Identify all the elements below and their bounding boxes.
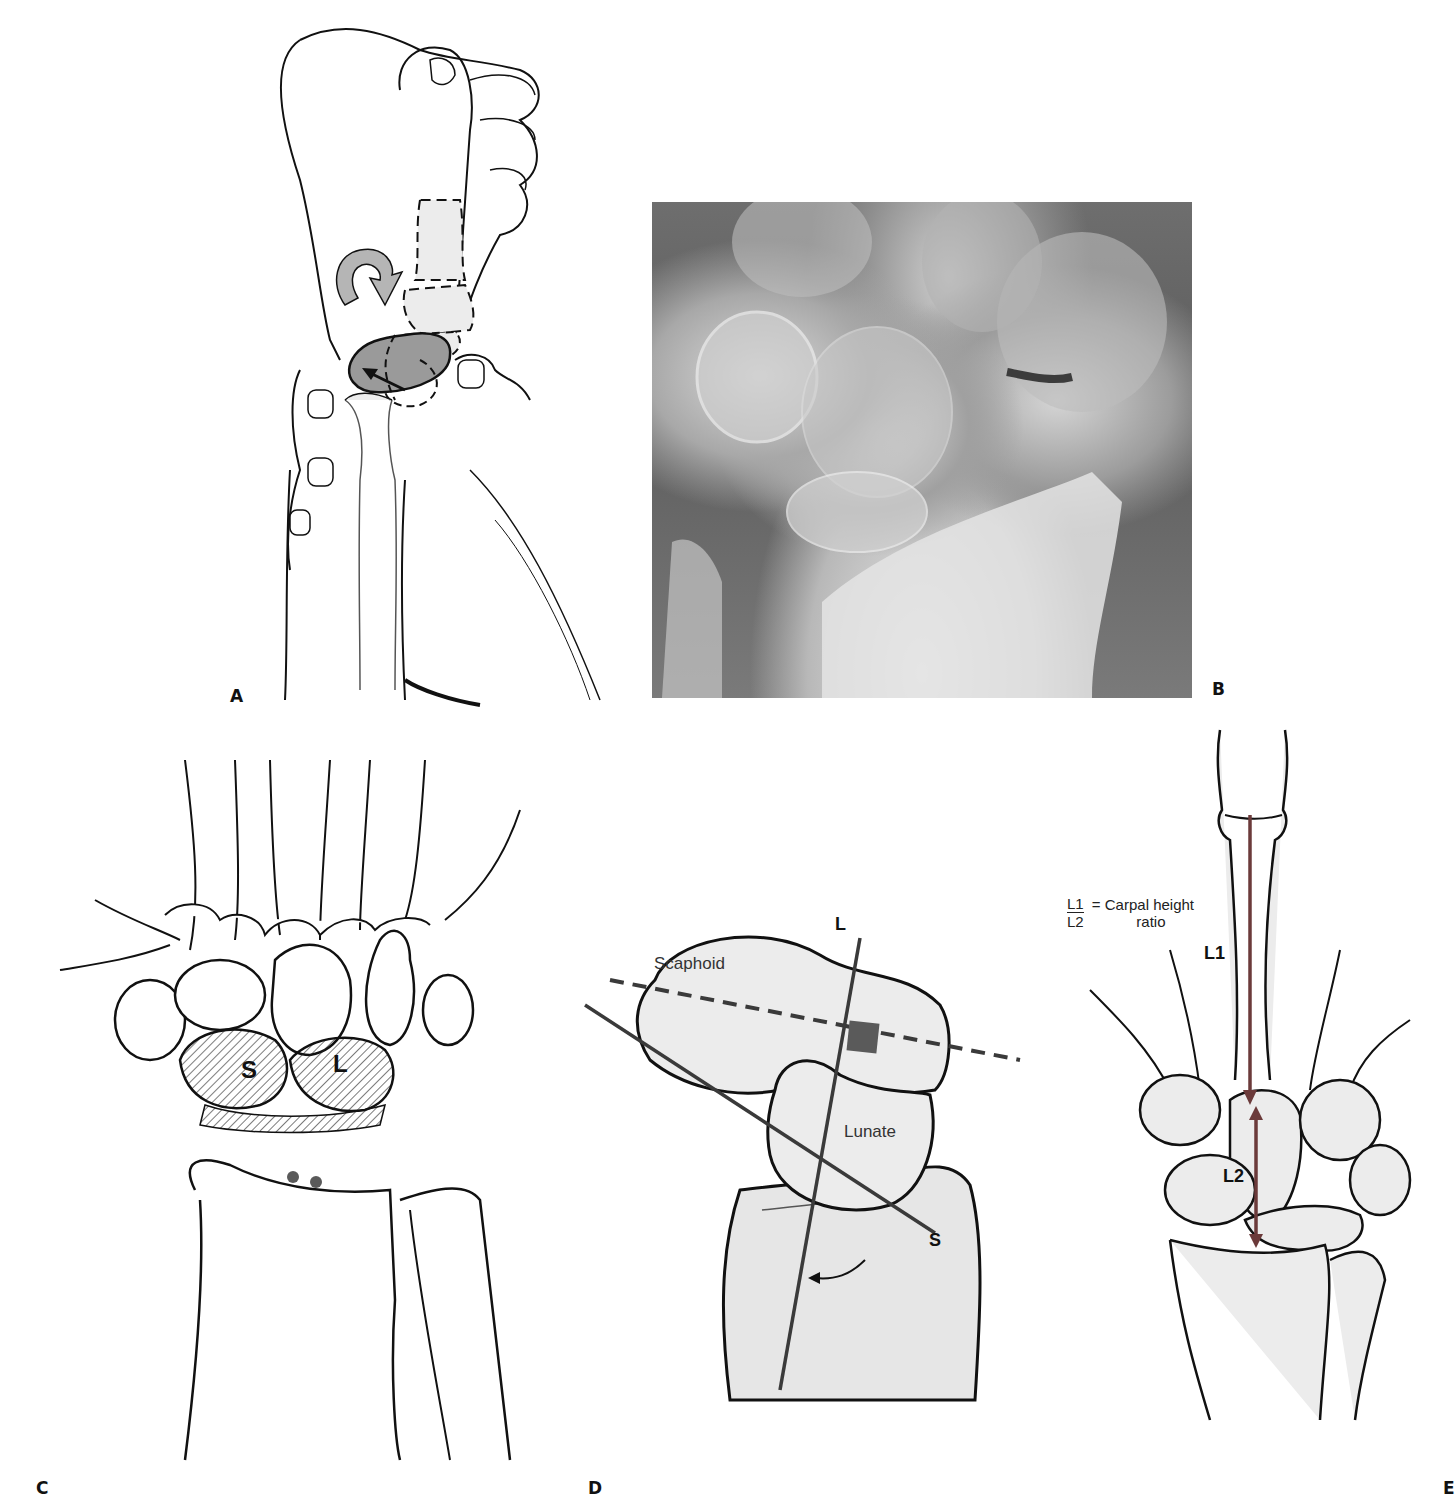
panel-a: A <box>0 0 640 710</box>
scaphoid-label-s: S <box>241 1056 257 1084</box>
shaded-carpal-bone <box>349 333 450 392</box>
scaphoid-label: Scaphoid <box>654 954 725 974</box>
panel-e: L1 L2 = Carpal height ratio L1 L2 E <box>1050 720 1456 1506</box>
carpal-height-ratio-diagram <box>1050 720 1456 1506</box>
formula-numerator: L1 <box>1067 895 1084 913</box>
marker-dot <box>287 1171 299 1183</box>
formula-text-line-1: = Carpal height <box>1092 896 1194 913</box>
carpal-bones-illustration <box>0 720 600 1506</box>
hand-wrist-illustration <box>0 0 640 710</box>
panel-label-c: C <box>36 1478 48 1498</box>
panel-label-e: E <box>1443 1478 1455 1498</box>
panel-c: S L C <box>0 720 600 1506</box>
panel-label-a: A <box>230 686 243 706</box>
scapholunate-angle-diagram <box>580 900 1050 1506</box>
axis-s-label: S <box>929 1230 941 1251</box>
formula-text-line-2: ratio <box>1092 913 1194 930</box>
formula-denominator: L2 <box>1067 913 1084 930</box>
rotation-arrow-icon <box>337 249 402 305</box>
panel-d: L S Scaphoid Lunate D <box>580 900 1050 1506</box>
lunate-label: Lunate <box>844 1122 896 1142</box>
panel-label-b: B <box>1212 679 1225 699</box>
wrist-radiograph <box>652 202 1192 698</box>
panel-label-d: D <box>588 1478 602 1498</box>
marker-dot <box>310 1176 322 1188</box>
carpal-height-formula: L1 L2 = Carpal height ratio <box>1067 895 1194 930</box>
axis-l-label: L <box>835 914 846 935</box>
marker-square-icon <box>847 1021 880 1054</box>
l1-label: L1 <box>1204 943 1225 964</box>
lunate-label-l: L <box>333 1050 348 1078</box>
l2-label: L2 <box>1223 1166 1244 1187</box>
